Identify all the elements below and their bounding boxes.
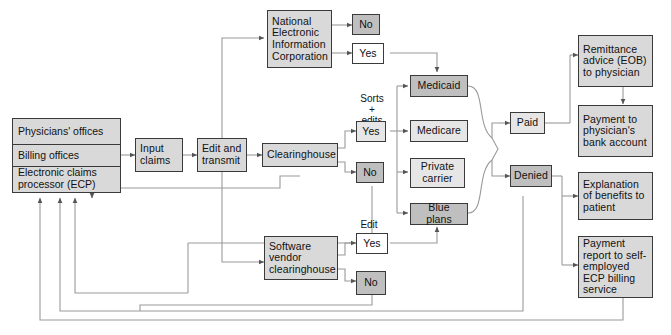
label-plus: + [369, 104, 375, 115]
originator-ecp: Electronic claims processor (ECP) [13, 166, 120, 191]
node-remittance-advice: Remittance advice (EOB) to physician [578, 35, 653, 87]
originator-billing-offices: Billing offices [13, 144, 120, 166]
node-payment-to-bank: Payment to physician's bank account [578, 105, 653, 157]
node-paid: Paid [510, 112, 545, 134]
node-input-claims: Input claims [135, 138, 183, 172]
claim-originators-stack: Physicians' offices Billing offices Elec… [12, 118, 121, 193]
node-software-yes: Yes [356, 233, 388, 254]
node-medicaid: Medicaid [410, 75, 468, 97]
originator-physicians-offices: Physicians' offices [13, 119, 120, 144]
label-sorts: Sorts [360, 93, 383, 104]
node-neic: National Electronic Information Corporat… [267, 10, 332, 68]
node-neic-no: No [352, 14, 380, 35]
node-blue-plans: Blue plans [410, 203, 468, 225]
node-clearinghouse: Clearinghouse [262, 143, 338, 167]
node-clearinghouse-yes: Yes [356, 121, 386, 142]
label-edit: Edit [352, 219, 386, 230]
node-neic-yes: Yes [352, 43, 384, 64]
node-software-vendor-clearinghouse: Software vendor clearinghouse [264, 236, 338, 280]
node-software-no: No [356, 271, 386, 295]
node-denied: Denied [510, 165, 552, 187]
node-payment-report-ecp: Payment report to self-employed ECP bill… [578, 236, 653, 298]
node-edit-and-transmit: Edit and transmit [197, 138, 247, 172]
node-eob-to-patient: Explanation of benefits to patient [578, 172, 653, 220]
node-clearinghouse-no: No [356, 162, 384, 183]
node-medicare: Medicare [410, 120, 468, 142]
node-private-carrier: Private carrier [410, 158, 465, 188]
flowchart-canvas: Physicians' offices Billing offices Elec… [0, 0, 671, 335]
